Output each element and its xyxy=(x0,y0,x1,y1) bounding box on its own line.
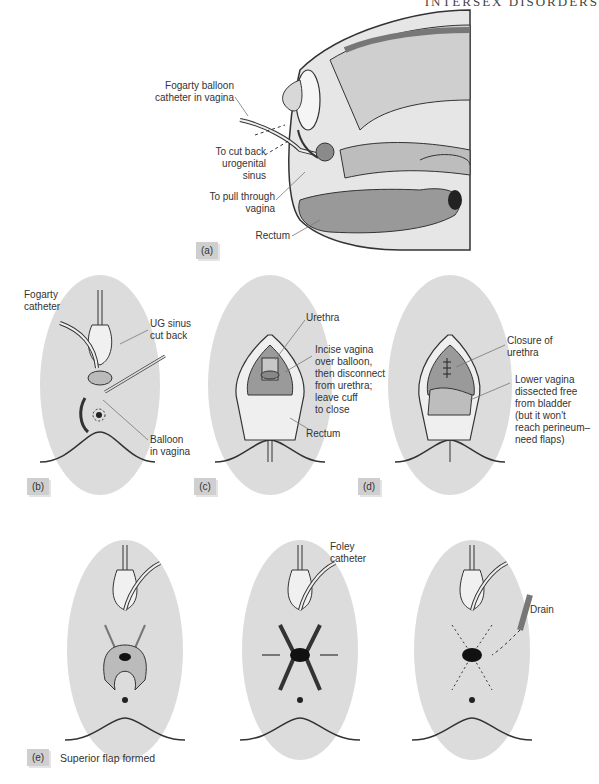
label-fogarty-balloon: Fogarty balloon xyxy=(150,80,234,92)
label-incise-2: over balloon, xyxy=(315,356,385,368)
label-catheter-b: catheter xyxy=(24,301,60,313)
panel-tag-b: (b) xyxy=(27,478,49,495)
label-balloon: Balloon xyxy=(150,434,190,446)
label-lower-4: (but it won't xyxy=(515,410,590,422)
label-rectum-a: Rectum xyxy=(230,230,290,242)
panel-tag-a: (a) xyxy=(196,242,218,259)
label-catheter-in-vagina: catheter in vagina xyxy=(150,92,234,104)
label-fogarty: Fogarty xyxy=(24,289,60,301)
label-sinus: sinus xyxy=(200,170,266,182)
label-drain: Drain xyxy=(530,604,554,616)
label-incise-6: to close xyxy=(315,404,385,416)
label-urethra-d: urethra xyxy=(507,347,553,359)
label-lower-5: reach perineum– xyxy=(515,422,590,434)
label-in-vagina: in vagina xyxy=(150,446,190,458)
panel-tag-e: (e) xyxy=(27,749,49,766)
label-urethra: Urethra xyxy=(306,312,339,324)
label-cut-back: cut back xyxy=(150,330,191,342)
label-incise-4: from urethra; xyxy=(315,380,385,392)
caption-e: Superior flap formed xyxy=(60,752,155,764)
panel-tag-c: (c) xyxy=(194,478,216,495)
label-lower-6: need flaps) xyxy=(515,434,590,446)
label-to-cut-back: To cut back xyxy=(200,146,266,158)
panel-tag-d: (d) xyxy=(358,478,380,495)
label-to-pull-through: To pull through xyxy=(180,191,275,203)
label-catheter-e: catheter xyxy=(330,553,366,565)
label-incise-5: leave cuff xyxy=(315,392,385,404)
label-incise-3: then disconnect xyxy=(315,368,385,380)
label-lower-3: from bladder xyxy=(515,398,590,410)
label-vagina: vagina xyxy=(180,203,275,215)
label-urogenital: urogenital xyxy=(200,158,266,170)
label-lower-1: Lower vagina xyxy=(515,374,590,386)
label-incise-1: Incise vagina xyxy=(315,344,385,356)
label-rectum-c: Rectum xyxy=(306,428,340,440)
panel-a-sagittal-illustration xyxy=(0,0,599,260)
label-ug-sinus: UG sinus xyxy=(150,318,191,330)
label-foley: Foley xyxy=(330,541,366,553)
label-closure-of: Closure of xyxy=(507,335,553,347)
label-lower-2: dissected free xyxy=(515,386,590,398)
